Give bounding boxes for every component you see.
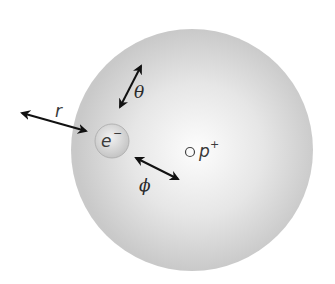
hydrogen-atom-diagram: e − p + r θ ϕ [0,0,335,284]
theta-label: θ [134,82,144,102]
electron-label: e [101,131,111,151]
proton-label: p [198,141,210,161]
proton-charge: + [210,138,219,151]
electron-charge: − [113,127,122,140]
electron: e − [95,124,129,158]
radius-label: r [55,101,63,121]
phi-label: ϕ [139,175,151,195]
